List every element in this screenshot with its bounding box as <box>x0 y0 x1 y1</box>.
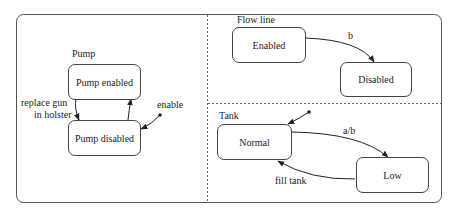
transition-label-enable: enable <box>157 99 183 110</box>
transition-flow-enabled-to-disabled <box>305 38 374 62</box>
region-title-pump: Pump <box>72 48 95 59</box>
transition-label-replace-gun-2: in holster <box>34 109 72 120</box>
transition-label-a-b: a/b <box>343 125 355 136</box>
transition-label-replace-gun-1: replace gun <box>21 97 67 108</box>
state-tank-low[interactable]: Low <box>356 157 429 193</box>
transition-tank-normal-to-low <box>291 132 388 157</box>
transition-label-b: b <box>348 30 353 41</box>
state-pump-disabled[interactable]: Pump disabled <box>68 120 141 156</box>
state-label: Pump enabled <box>76 77 133 88</box>
state-label: Pump disabled <box>75 133 134 144</box>
state-label: Enabled <box>253 40 286 51</box>
state-flow-enabled[interactable]: Enabled <box>232 27 306 63</box>
state-tank-normal[interactable]: Normal <box>217 124 292 160</box>
state-label: Disabled <box>358 74 394 85</box>
transition-pump-disabled-to-enabled <box>128 99 131 120</box>
transition-label-fill-tank: fill tank <box>275 175 306 186</box>
region-title-flow-line: Flow line <box>237 14 275 25</box>
state-label: Normal <box>239 137 270 148</box>
transition-tank-initial <box>288 112 309 124</box>
state-label: Low <box>383 170 401 181</box>
transition-pump-initial <box>141 115 160 129</box>
region-title-tank: Tank <box>219 110 239 121</box>
transition-pump-enabled-to-disabled <box>75 99 79 120</box>
state-pump-enabled[interactable]: Pump enabled <box>68 64 141 100</box>
state-flow-disabled[interactable]: Disabled <box>340 62 412 97</box>
